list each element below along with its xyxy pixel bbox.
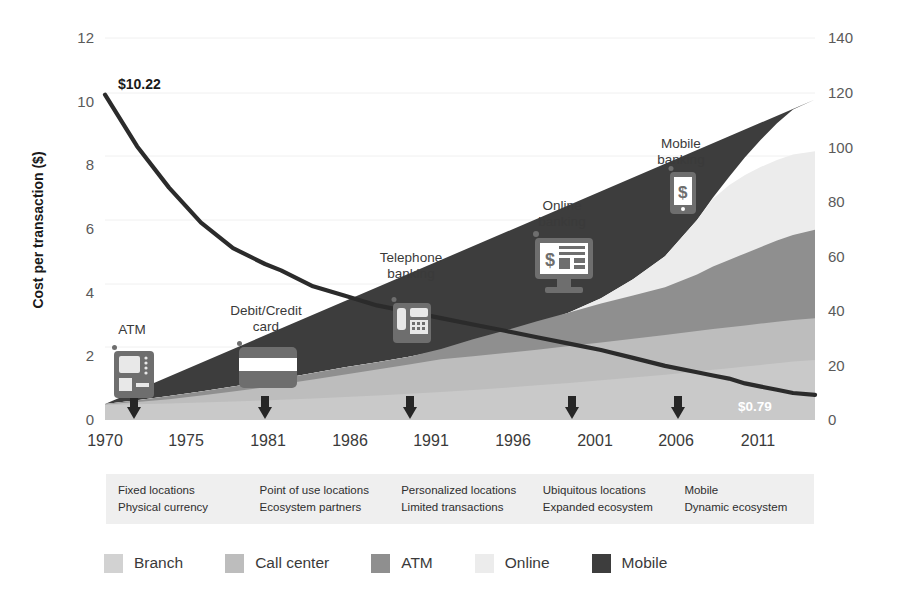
legend-label-branch: Branch bbox=[134, 554, 183, 572]
legend-item-online[interactable]: Online bbox=[475, 554, 550, 573]
phase-column-3: Personalized locations Limited transacti… bbox=[389, 482, 531, 515]
svg-text:$: $ bbox=[678, 183, 688, 202]
end-cost-label: $0.79 bbox=[738, 399, 772, 414]
legend-item-call-center[interactable]: Call center bbox=[225, 554, 329, 573]
callout-debit-credit-card: Debit/Credit card bbox=[216, 303, 316, 334]
phase-2-line2: Ecosystem partners bbox=[260, 499, 390, 516]
legend-label-online: Online bbox=[505, 554, 550, 572]
phase-bar: Fixed locations Physical currency Point … bbox=[106, 474, 814, 524]
phase-1-line1: Fixed locations bbox=[118, 482, 248, 499]
phase-column-1: Fixed locations Physical currency bbox=[106, 482, 248, 515]
legend-label-call-center: Call center bbox=[255, 554, 329, 572]
phase-1-line2: Physical currency bbox=[118, 499, 248, 516]
desk-phone-icon bbox=[392, 297, 432, 343]
callout-mobile-banking: Mobile banking bbox=[638, 136, 724, 167]
callout-mobile-banking-line2: banking bbox=[638, 152, 724, 168]
callout-online-banking: Online banking bbox=[519, 198, 605, 229]
legend-item-atm[interactable]: ATM bbox=[371, 554, 433, 573]
legend-label-atm: ATM bbox=[401, 554, 433, 572]
start-cost-label: $10.22 bbox=[118, 76, 161, 92]
callout-atm: ATM bbox=[92, 322, 172, 338]
legend-item-mobile[interactable]: Mobile bbox=[592, 554, 668, 573]
smartphone-icon: $ bbox=[669, 166, 697, 214]
credit-card-icon bbox=[237, 341, 297, 388]
legend-swatch-branch bbox=[104, 554, 123, 573]
callout-atm-line1: ATM bbox=[92, 322, 172, 338]
phase-5-line2: Dynamic ecosystem bbox=[684, 499, 814, 516]
legend-swatch-mobile bbox=[592, 554, 611, 573]
phase-column-2: Point of use locations Ecosystem partner… bbox=[248, 482, 390, 515]
callout-debit-credit-card-line1: Debit/Credit bbox=[216, 303, 316, 319]
atm-icon bbox=[112, 345, 154, 398]
callout-online-banking-line2: banking bbox=[519, 214, 605, 230]
phase-3-line1: Personalized locations bbox=[401, 482, 531, 499]
svg-text:$: $ bbox=[545, 250, 555, 270]
phase-3-line2: Limited transactions bbox=[401, 499, 531, 516]
callout-telephone-banking-line2: banking bbox=[368, 266, 454, 282]
legend: Branch Call center ATM Online Mobile bbox=[104, 548, 816, 578]
callout-telephone-banking: Telephone banking bbox=[368, 250, 454, 281]
phase-4-line2: Expanded ecosystem bbox=[543, 499, 673, 516]
phase-column-5: Mobile Dynamic ecosystem bbox=[672, 482, 814, 515]
legend-item-branch[interactable]: Branch bbox=[104, 554, 183, 573]
phase-4-line1: Ubiquitous locations bbox=[543, 482, 673, 499]
phase-5-line1: Mobile bbox=[684, 482, 814, 499]
legend-swatch-atm bbox=[371, 554, 390, 573]
phase-2-line1: Point of use locations bbox=[260, 482, 390, 499]
callout-online-banking-line1: Online bbox=[519, 198, 605, 214]
legend-swatch-call-center bbox=[225, 554, 244, 573]
legend-label-mobile: Mobile bbox=[622, 554, 668, 572]
legend-swatch-online bbox=[475, 554, 494, 573]
callout-mobile-banking-line1: Mobile bbox=[638, 136, 724, 152]
phase-column-4: Ubiquitous locations Expanded ecosystem bbox=[531, 482, 673, 515]
chart-container: Cost per transaction ($) Transaction vol… bbox=[0, 0, 917, 611]
callout-telephone-banking-line1: Telephone bbox=[368, 250, 454, 266]
callout-debit-credit-card-line2: card bbox=[216, 319, 316, 335]
